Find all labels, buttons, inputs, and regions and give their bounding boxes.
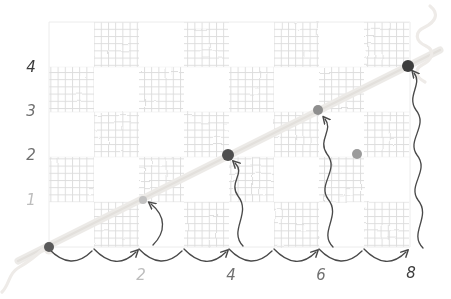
point-6-3 xyxy=(313,105,323,115)
slope-diagram: 1 2 3 4 2 4 6 8 xyxy=(0,0,451,299)
run-arc-1 xyxy=(49,249,92,261)
point-2-1 xyxy=(139,196,147,204)
point-7-2 xyxy=(352,149,362,159)
point-4-2 xyxy=(222,149,234,161)
x-axis-labels: 2 4 6 8 xyxy=(136,264,416,284)
point-0-0 xyxy=(44,242,54,252)
x-tick-label-8: 8 xyxy=(406,264,416,282)
top-right-squiggle xyxy=(417,6,436,82)
run-arc-8 xyxy=(364,249,406,261)
x-tick-label-4: 4 xyxy=(226,266,236,284)
rise-arc-x2 xyxy=(151,204,163,245)
x-tick-label-2: 2 xyxy=(136,266,146,284)
run-arc-4 xyxy=(184,249,226,261)
run-arc-6 xyxy=(274,249,316,261)
run-arc-5 xyxy=(229,249,272,261)
y-tick-label-2: 2 xyxy=(26,146,36,164)
rise-arc-x8 xyxy=(413,73,423,248)
run-arcs xyxy=(49,249,406,261)
x-tick-label-6: 6 xyxy=(316,266,326,284)
point-8-4 xyxy=(402,60,414,72)
run-arc-7 xyxy=(319,249,362,261)
y-tick-label-1: 1 xyxy=(26,191,36,209)
run-arc-2 xyxy=(94,249,136,261)
y-tick-label-4: 4 xyxy=(26,58,36,76)
checkerboard-grid xyxy=(49,22,409,247)
run-arc-3 xyxy=(139,249,182,261)
figure-root: 1 2 3 4 2 4 6 8 xyxy=(0,0,451,299)
y-axis-labels: 1 2 3 4 xyxy=(26,58,36,209)
y-tick-label-3: 3 xyxy=(26,102,36,120)
